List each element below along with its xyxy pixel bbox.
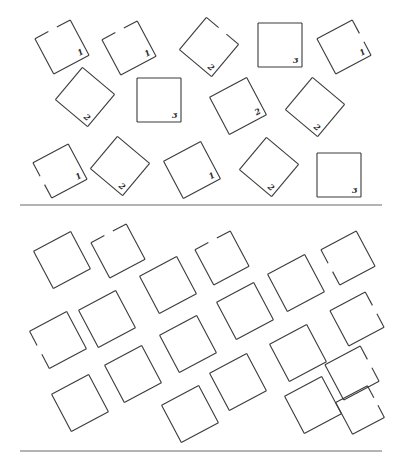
top-panel: 11231232212123 <box>33 17 371 198</box>
square-outline <box>52 375 109 432</box>
orientation-label: 1 <box>357 46 367 57</box>
square-outline <box>91 224 145 278</box>
square-outline <box>30 312 87 369</box>
square-outline: 1 <box>35 20 89 74</box>
orientation-label: 1 <box>75 46 85 57</box>
square-outline: 3 <box>317 153 361 197</box>
orientation-label: 2 <box>252 105 263 117</box>
square-outline: 3 <box>258 23 302 67</box>
orientation-label: 3 <box>352 185 358 195</box>
orientation-label: 1 <box>142 47 152 58</box>
square-outline: 2 <box>239 137 298 196</box>
orientation-label: 2 <box>81 111 93 123</box>
square-outline <box>195 231 249 285</box>
square-outline: 2 <box>210 78 267 135</box>
square-outline <box>34 232 91 289</box>
orientation-label: 2 <box>116 180 128 192</box>
rotated-squares-figure: 11231232212123 <box>0 0 398 469</box>
orientation-label: 2 <box>265 181 277 193</box>
square-outline <box>162 386 219 443</box>
square-outline <box>268 255 325 312</box>
square-outline: 2 <box>55 67 114 126</box>
square-outline <box>321 231 375 285</box>
square-outline: 1 <box>102 21 156 75</box>
square-outline: 1 <box>33 144 87 198</box>
square-outline: 1 <box>164 142 221 199</box>
square-outline <box>160 316 217 373</box>
orientation-label: 3 <box>172 110 178 120</box>
square-outline <box>330 292 384 346</box>
square-outline: 2 <box>90 136 149 195</box>
square-outline <box>336 386 385 435</box>
square-outline: 3 <box>137 78 181 122</box>
square-outline <box>210 354 267 411</box>
square-outline <box>270 325 327 382</box>
square-outline <box>79 291 136 348</box>
square-outline <box>105 346 162 403</box>
bottom-panel <box>30 224 385 442</box>
orientation-label: 3 <box>293 55 299 65</box>
orientation-label: 2 <box>311 121 323 133</box>
square-outline: 2 <box>285 77 344 136</box>
square-outline <box>285 377 342 434</box>
square-outline <box>217 283 274 340</box>
orientation-label: 2 <box>205 61 217 73</box>
square-outline: 1 <box>317 20 371 74</box>
square-outline: 2 <box>179 17 238 76</box>
orientation-label: 1 <box>207 170 217 181</box>
square-outline <box>140 257 197 314</box>
orientation-label: 1 <box>73 170 83 181</box>
